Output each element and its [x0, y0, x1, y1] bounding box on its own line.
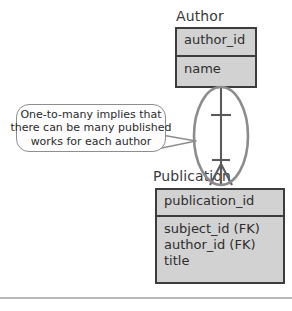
- callout-line-3: works for each author: [31, 135, 152, 149]
- entity-label-author: Author: [176, 8, 224, 24]
- field-name: name: [184, 61, 248, 77]
- entity-attr-row-publication: subject_id (FK) author_id (FK) title: [157, 217, 283, 282]
- field-publication-id: publication_id: [164, 193, 276, 209]
- entity-table-author: author_id name: [175, 27, 257, 88]
- field-subject-id-fk: subject_id (FK): [164, 221, 276, 237]
- field-author-id-fk: author_id (FK): [164, 237, 276, 253]
- field-author-id: author_id: [184, 32, 248, 48]
- field-title: title: [164, 253, 276, 269]
- entity-key-row-author: author_id: [177, 29, 255, 57]
- bottom-divider: [0, 297, 292, 299]
- entity-label-publication: Publication: [153, 168, 231, 184]
- callout-line-1: One-to-many implies that: [20, 108, 161, 122]
- callout-line-2: there can be many published: [10, 121, 171, 135]
- er-diagram-canvas: Author author_id name Publication public…: [0, 0, 292, 311]
- entity-attr-row-author: name: [177, 57, 255, 86]
- entity-key-row-publication: publication_id: [157, 190, 283, 217]
- annotation-callout: One-to-many implies that there can be ma…: [16, 104, 166, 152]
- entity-table-publication: publication_id subject_id (FK) author_id…: [155, 188, 285, 284]
